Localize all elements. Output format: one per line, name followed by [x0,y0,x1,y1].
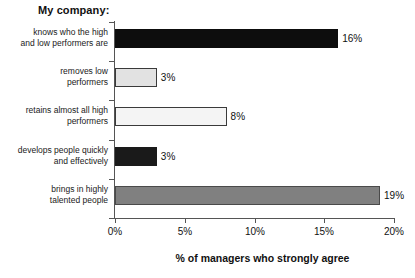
y-axis-tick [109,61,115,62]
category-label: retains almost all high performers [0,105,108,127]
category-label: removes low performers [0,66,108,88]
bar-removes-low-performers [115,68,157,87]
category-label: brings in highly talented people [0,184,108,206]
chart-title: My company: [38,4,109,16]
x-axis-tick-label: 0% [95,226,135,237]
category-label-line: develops people quickly [0,145,108,156]
category-label: knows who the high and low performers ar… [0,27,108,49]
bar-value-label: 3% [161,68,175,87]
category-label-line: retains almost all high [0,105,108,116]
x-axis-tick-label: 15% [304,226,344,237]
x-axis-tick [324,218,325,223]
bar-value-label: 8% [231,107,245,126]
chart-row: retains almost all high performers 8% [0,100,415,139]
category-label-line: removes low [0,66,108,77]
x-axis-tick-label: 5% [165,226,205,237]
x-axis-tick [394,218,395,223]
category-label-line: performers [0,116,108,127]
y-axis-tick [109,100,115,101]
x-axis-tick [255,218,256,223]
category-label-line: performers [0,77,108,88]
category-label-line: talented people [0,195,108,206]
chart-row: knows who the high and low performers ar… [0,22,415,61]
bar-value-label: 3% [161,147,175,166]
bar-chart: My company: knows who the high and low p… [0,0,415,278]
category-label: develops people quickly and effectively [0,145,108,167]
category-label-line: and effectively [0,156,108,167]
chart-row: brings in highly talented people 19% [0,179,415,218]
chart-row: removes low performers 3% [0,61,415,100]
category-label-line: and low performers are [0,38,108,49]
bar-knows-who-the-high-and-low-performers-are [115,29,338,48]
bar-retains-almost-all-high-performers [115,107,227,126]
x-axis-tick [185,218,186,223]
x-axis-tick [115,218,116,223]
bar-value-label: 19% [384,186,404,205]
bar-value-label: 16% [342,29,362,48]
category-label-line: brings in highly [0,184,108,195]
chart-row: develops people quickly and effectively … [0,140,415,179]
y-axis-tick [109,179,115,180]
bar-brings-in-highly-talented-people [115,186,380,205]
x-axis-tick-label: 20% [374,226,414,237]
bar-develops-people-quickly-and-effectively [115,147,157,166]
y-axis-tick [109,140,115,141]
y-axis-tick [109,22,115,23]
x-axis-title: % of managers who strongly agree [115,252,410,264]
x-axis-tick-label: 10% [235,226,275,237]
category-label-line: knows who the high [0,27,108,38]
